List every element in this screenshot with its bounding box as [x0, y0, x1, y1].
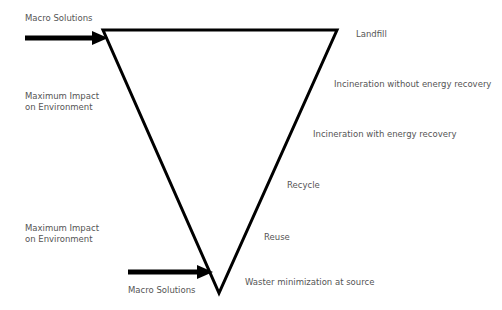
level-reuse: Reuse — [264, 232, 290, 243]
level-incineration-without-recovery: Incineration without energy recovery — [334, 79, 491, 90]
level-waste-minimization: Waster minimization at source — [245, 277, 374, 288]
bottom-arrow-icon — [128, 265, 213, 279]
top-macro-solutions-label: Macro Solutions — [25, 13, 92, 24]
level-recycle: Recycle — [287, 180, 320, 191]
hierarchy-diagram — [0, 0, 502, 310]
level-landfill: Landfill — [356, 29, 387, 40]
top-arrow-icon — [25, 31, 108, 45]
level-incineration-with-recovery: Incineration with energy recovery — [313, 129, 456, 140]
inverted-triangle — [103, 30, 337, 293]
bottom-impact-label: Maximum Impact on Environment — [25, 223, 99, 245]
bottom-macro-solutions-label: Macro Solutions — [128, 285, 195, 296]
top-impact-label: Maximum Impact on Environment — [25, 91, 99, 113]
